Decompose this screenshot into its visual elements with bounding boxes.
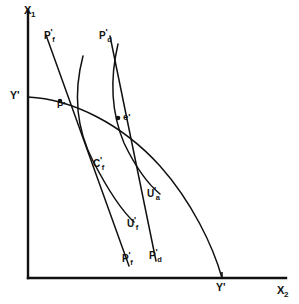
x-axis-label-text: X [277, 284, 284, 296]
label-indifference-f-sub: f [136, 223, 138, 232]
y-axis-label: X1 [24, 4, 35, 19]
label-price-line-d-bottom: P'd [149, 247, 162, 264]
label-indifference-a-sub: a [156, 193, 160, 202]
y-axis-label-subscript: 1 [31, 10, 35, 19]
axes-group [28, 10, 286, 278]
label-price-line-d-bottom-sub: d [157, 255, 161, 264]
label-indifference-curve-f: U'f [127, 215, 138, 232]
label-indifference-curve-a: U'a [147, 185, 160, 202]
label-consumption-f-sub: f [102, 163, 104, 172]
figure-canvas: X1 X2 Y' Y' P'f P'd U'a U'f P'f P'd C'f … [0, 0, 299, 304]
label-price-line-d-top-sub: d [107, 35, 111, 44]
x-intercept-label: Y' [216, 281, 226, 293]
label-price-line-f-bottom-sub: f [130, 258, 132, 267]
label-price-line-f-top-sub: f [52, 35, 54, 44]
label-price-line-f-top: P'f [44, 27, 54, 44]
x-axis-label-subscript: 2 [284, 290, 288, 299]
y-intercept-label: Y' [10, 89, 20, 101]
label-price-line-f-bottom: P'f [122, 250, 132, 267]
indifference-curve-freetrade-path [77, 56, 134, 222]
label-indifference-a-base: U [147, 188, 154, 199]
equilibrium-point-marker [116, 116, 121, 121]
label-consumption-point-f: C'f [93, 155, 104, 172]
label-indifference-f-base: U [127, 218, 134, 229]
y-axis-label-text: X [24, 4, 31, 16]
production-point-label: P' [57, 99, 66, 110]
label-price-line-d-top: P'd [99, 27, 112, 44]
label-consumption-f-base: C [93, 158, 100, 169]
equilibrium-point-label: e' [123, 111, 131, 122]
x-axis-label: X2 [277, 284, 288, 299]
